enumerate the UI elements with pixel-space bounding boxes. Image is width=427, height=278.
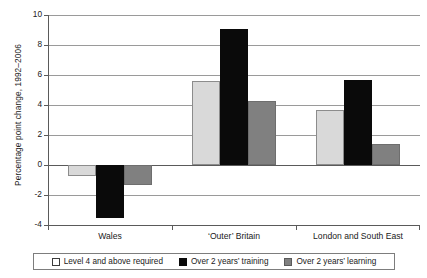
bar — [68, 165, 96, 176]
bar — [344, 80, 372, 166]
y-axis-tick-labels: 1086420-2-4 — [16, 15, 42, 225]
category-tick — [296, 225, 297, 230]
bar-chart: Percentage point change, 1992–2006 10864… — [0, 0, 427, 278]
y-axis-tick-label: 10 — [16, 9, 42, 19]
legend-item[interactable]: Over 2 years’ learning — [284, 257, 376, 266]
y-axis-tick-label: -2 — [16, 189, 42, 199]
y-axis-tick — [44, 75, 48, 76]
y-axis-tick-label: 2 — [16, 129, 42, 139]
legend-swatch-icon — [52, 258, 60, 266]
category-tick — [419, 225, 420, 230]
y-axis-line — [48, 15, 49, 225]
axis-baseline — [48, 225, 420, 226]
legend-item[interactable]: Level 4 and above required — [52, 257, 163, 266]
legend-label: Over 2 years’ training — [191, 257, 269, 266]
category-label-3: London and South East — [296, 231, 420, 241]
chart-legend: Level 4 and above requiredOver 2 years’ … — [33, 253, 395, 270]
bar — [96, 165, 124, 218]
legend-label: Over 2 years’ learning — [296, 257, 376, 266]
y-axis-tick-label: 0 — [16, 159, 42, 169]
category-label-1: Wales — [48, 231, 172, 241]
y-axis-tick — [44, 135, 48, 136]
y-axis-tick-label: 6 — [16, 69, 42, 79]
legend-item[interactable]: Over 2 years’ training — [179, 257, 269, 266]
y-axis-tick-label: 8 — [16, 39, 42, 49]
y-axis-tick — [44, 105, 48, 106]
y-axis-tick — [44, 195, 48, 196]
legend-label: Level 4 and above required — [64, 257, 163, 266]
bar — [372, 144, 400, 165]
plot-area — [48, 15, 420, 225]
y-axis-tick-label: 4 — [16, 99, 42, 109]
gridline — [48, 15, 420, 16]
y-axis-tick — [44, 15, 48, 16]
y-axis-tick — [44, 45, 48, 46]
legend-swatch-icon — [284, 258, 292, 266]
bar — [316, 110, 344, 166]
bar — [192, 81, 220, 165]
y-axis-tick — [44, 165, 48, 166]
category-tick — [48, 225, 49, 230]
y-axis-tick-label: -4 — [16, 219, 42, 229]
bar — [124, 165, 152, 185]
bar — [248, 101, 276, 166]
category-tick — [172, 225, 173, 230]
category-label-2: ‘Outer’ Britain — [172, 231, 296, 241]
bar — [220, 29, 248, 166]
legend-swatch-icon — [179, 258, 187, 266]
